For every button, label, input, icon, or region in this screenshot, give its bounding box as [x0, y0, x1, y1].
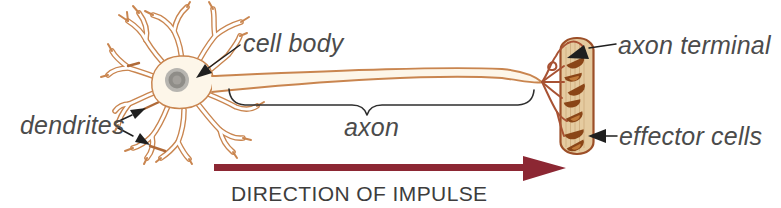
label-dendrites: dendrites — [20, 113, 125, 138]
impulse-arrow — [214, 156, 566, 181]
label-direction-of-impulse: DIRECTION OF IMPULSE — [231, 183, 488, 204]
label-axon: axon — [344, 115, 399, 140]
nucleus-graphic — [165, 68, 189, 92]
label-effector-cells: effector cells — [619, 124, 762, 149]
axon-brace — [229, 89, 534, 115]
label-cell-body: cell body — [243, 31, 343, 56]
label-axon-terminal: axon terminal — [618, 33, 771, 58]
axon-graphic — [212, 68, 542, 92]
neuron-diagram: dendrites cell body axon axon terminal e… — [0, 0, 781, 208]
